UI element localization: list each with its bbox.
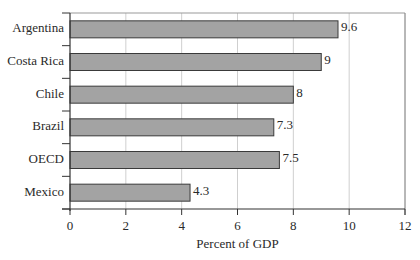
bar-brazil	[70, 119, 274, 136]
category-label: Brazil	[32, 118, 64, 134]
bar-mexico	[70, 184, 190, 201]
bar-chile	[70, 86, 293, 103]
value-label: 7.5	[282, 150, 298, 166]
x-tick-label: 6	[223, 218, 253, 234]
x-axis-label: Percent of GDP	[70, 236, 405, 252]
category-label: OECD	[29, 151, 64, 167]
x-tick-label: 12	[390, 218, 420, 234]
bar-argentina	[70, 21, 338, 38]
bar-costa-rica	[70, 54, 321, 71]
category-label: Mexico	[24, 184, 64, 200]
x-tick-label: 0	[55, 218, 85, 234]
bar-oecd	[70, 152, 279, 169]
category-label: Argentina	[12, 20, 64, 36]
value-label: 7.3	[277, 117, 293, 133]
value-label: 8	[296, 85, 303, 101]
value-label: 9.6	[341, 19, 357, 35]
x-tick-label: 8	[278, 218, 308, 234]
x-tick-label: 4	[167, 218, 197, 234]
x-tick-label: 10	[334, 218, 364, 234]
value-label: 9	[324, 52, 331, 68]
category-label: Costa Rica	[7, 53, 64, 69]
x-tick-label: 2	[111, 218, 141, 234]
category-label: Chile	[36, 86, 64, 102]
value-label: 4.3	[193, 183, 209, 199]
bar-chart: Argentina9.6Costa Rica9Chile8Brazil7.3OE…	[0, 0, 420, 260]
